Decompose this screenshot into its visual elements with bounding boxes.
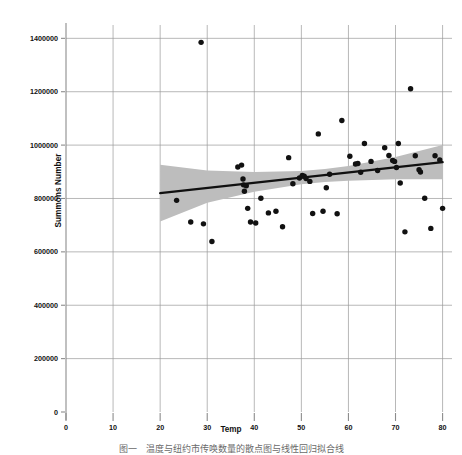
figure-caption: 图一 温度与纽约市传唤数量的散点图与线性回归拟合线: [0, 442, 462, 455]
svg-text:400000: 400000: [34, 301, 58, 310]
grid-lines: [66, 25, 452, 412]
y-axis-title: Summons Number: [54, 131, 63, 251]
data-points: [174, 40, 445, 245]
tick-labels: 0102030405060708002000004000006000008000…: [30, 34, 447, 432]
tick-marks: [61, 38, 443, 421]
svg-text:0: 0: [54, 408, 58, 417]
svg-text:1400000: 1400000: [30, 34, 58, 43]
svg-text:1200000: 1200000: [30, 87, 58, 96]
x-axis-title: Temp: [0, 425, 462, 434]
svg-text:200000: 200000: [34, 354, 58, 363]
